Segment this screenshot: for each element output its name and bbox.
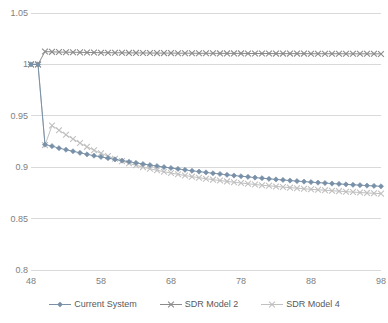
data-point-marker — [58, 301, 63, 306]
x-axis-tick-label: 98 — [376, 276, 386, 286]
x-axis-tick-label: 68 — [166, 276, 176, 286]
x-axis: 485868788898 — [0, 0, 388, 323]
legend-item[interactable]: SDR Model 4 — [260, 299, 340, 310]
legend-label: SDR Model 2 — [185, 299, 239, 310]
chart-legend: Current SystemSDR Model 2SDR Model 4 — [0, 296, 388, 312]
x-axis-tick-label: 88 — [306, 276, 316, 286]
x-axis-tick-label: 58 — [96, 276, 106, 286]
legend-item[interactable]: Current System — [48, 299, 137, 310]
legend-marker-x-icon — [159, 299, 183, 310]
legend-marker-diamond-icon — [48, 299, 72, 310]
x-axis-tick-label: 78 — [236, 276, 246, 286]
legend-label: Current System — [74, 299, 137, 310]
legend-label: SDR Model 4 — [286, 299, 340, 310]
legend-marker-x-icon — [260, 299, 284, 310]
chart-container: 0.80.850.90.9511.05 485868788898 Current… — [0, 0, 388, 323]
legend-item[interactable]: SDR Model 2 — [159, 299, 239, 310]
x-axis-tick-label: 48 — [26, 276, 36, 286]
